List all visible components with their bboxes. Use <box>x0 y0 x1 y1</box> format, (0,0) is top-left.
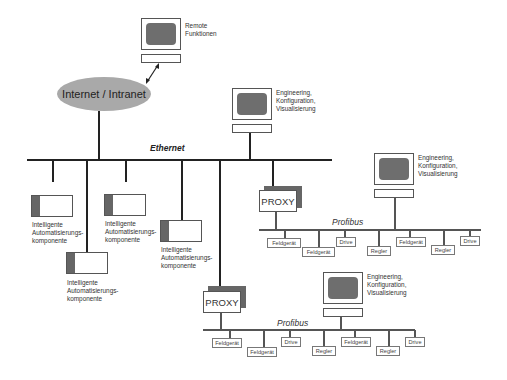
profibus-label-1: Profibus <box>332 217 363 227</box>
drop <box>284 230 286 238</box>
device-feldgeraet: Feldgerät <box>396 237 426 247</box>
proxy-label: PROXY <box>261 196 294 207</box>
engineering-base-1 <box>374 189 414 198</box>
engineering-connector <box>394 198 396 230</box>
engineering-label-top: Engineering, Konfiguration, Visualisieru… <box>276 89 316 112</box>
engineering-connector-top <box>249 133 251 160</box>
device-drive: Drive <box>460 236 480 246</box>
proxy-connector <box>220 313 222 330</box>
drop <box>318 230 320 247</box>
component-label-3: Intelligente Automatisierungs- komponent… <box>105 220 157 243</box>
cloud-label: Internet / Intranet <box>62 88 146 100</box>
automation-component-1 <box>31 195 73 217</box>
device-drive: Drive <box>405 337 425 347</box>
device-drive: Drive <box>281 337 301 347</box>
device-regler: Regler <box>376 346 400 356</box>
cloud-connector <box>98 111 100 160</box>
monitor-screen <box>328 277 358 299</box>
device-feldgeraet: Feldgerät <box>267 238 301 248</box>
engineering-base-2 <box>323 308 363 317</box>
internet-intranet-cloud: Internet / Intranet <box>57 77 151 111</box>
automation-component-2 <box>66 252 108 274</box>
drop <box>323 330 325 347</box>
component-bar <box>67 253 75 273</box>
proxy-2: PROXY <box>203 291 241 313</box>
engineering-base-top <box>232 124 272 133</box>
drop <box>86 160 88 253</box>
device-regler: Regler <box>367 246 391 256</box>
automation-component-4 <box>160 220 202 242</box>
drop <box>378 230 380 247</box>
drop <box>263 330 265 348</box>
automation-component-3 <box>104 194 146 216</box>
drop <box>125 160 127 182</box>
device-drive: Drive <box>336 237 356 247</box>
monitor-screen <box>237 93 267 115</box>
component-bar <box>32 196 40 216</box>
drop <box>388 330 390 347</box>
engineering-label-2: Engineering, Konfiguration, Visualisieru… <box>367 273 407 296</box>
device-feldgeraet: Feldgerät <box>341 337 371 347</box>
component-label-4: Intelligente Automatisierungs- komponent… <box>161 246 213 269</box>
component-label-2: Intelligente Automatisierungs- komponent… <box>67 279 119 302</box>
device-feldgeraet: Feldgerät <box>302 247 335 257</box>
drop <box>52 160 54 182</box>
device-feldgeraet: Feldgerät <box>212 338 242 348</box>
ethernet-label: Ethernet <box>150 143 184 153</box>
device-feldgeraet: Feldgerät <box>247 347 277 357</box>
drop <box>219 160 221 292</box>
engineering-monitor-1 <box>374 153 414 185</box>
drop <box>181 160 183 220</box>
engineering-label-1: Engineering, Konfiguration, Visualisieru… <box>418 154 458 177</box>
proxy-label: PROXY <box>205 297 238 308</box>
ethernet-bus <box>27 159 332 161</box>
engineering-connector <box>340 317 342 330</box>
engineering-monitor-top <box>232 88 272 120</box>
component-label-1: Intelligente Automatisierungs- komponent… <box>32 221 84 244</box>
profibus-bus-1 <box>259 229 481 231</box>
device-regler: Regler <box>431 245 455 255</box>
bidirectional-arrow-icon <box>144 62 162 86</box>
profibus-label-2: Profibus <box>277 318 308 328</box>
remote-label: Remote Funktionen <box>185 22 217 38</box>
device-regler: Regler <box>312 346 336 356</box>
monitor-screen <box>146 23 176 45</box>
proxy-1: PROXY <box>259 190 297 212</box>
component-bar <box>105 195 113 215</box>
remote-monitor <box>141 18 181 50</box>
proxy-connector <box>275 212 277 230</box>
profibus-bus-2 <box>203 329 415 331</box>
engineering-monitor-2 <box>323 272 363 304</box>
monitor-screen <box>379 158 409 180</box>
component-bar <box>161 221 169 241</box>
drop <box>272 160 274 187</box>
